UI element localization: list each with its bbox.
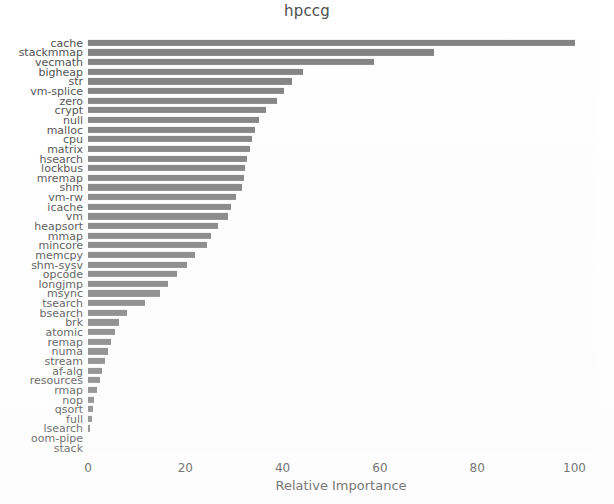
bar-row: stackmmap [88, 48, 594, 58]
bar-row: mincore [88, 240, 594, 250]
bar [88, 184, 242, 190]
bar-row: bsearch [88, 308, 594, 318]
x-axis-tick-label: 0 [84, 461, 92, 475]
bar-row: stream [88, 356, 594, 366]
x-axis-tick-label: 40 [275, 461, 290, 475]
x-axis-tick-label: 80 [470, 461, 485, 475]
bar [88, 233, 211, 239]
bar [88, 88, 284, 94]
bar-row: vm-rw [88, 192, 594, 202]
bar [88, 242, 207, 248]
x-axis-tick-label: 60 [372, 461, 387, 475]
bar-row: bigheap [88, 67, 594, 77]
bar-row: qsort [88, 404, 594, 414]
bar [88, 194, 236, 200]
bar-row: crypt [88, 105, 594, 115]
bar-row: matrix [88, 144, 594, 154]
bar-row: full [88, 414, 594, 424]
bar-row: mremap [88, 173, 594, 183]
bar-row: hsearch [88, 154, 594, 164]
bar-row: lockbus [88, 163, 594, 173]
bar-row: icache [88, 202, 594, 212]
bar-chart-figure: hpccg cachestackmmapvecmathbigheapstrvm-… [0, 0, 614, 504]
bar [88, 319, 119, 325]
bar [88, 310, 127, 316]
bar [88, 136, 252, 142]
bar [88, 290, 160, 296]
bar-rows: cachestackmmapvecmathbigheapstrvm-splice… [88, 38, 594, 453]
bar [88, 40, 575, 46]
bar-row: memcpy [88, 250, 594, 260]
bar [88, 165, 245, 171]
bar-row: zero [88, 96, 594, 106]
chart-title: hpccg [0, 2, 614, 20]
x-axis-tick-label: 20 [178, 461, 193, 475]
bar-row: cpu [88, 134, 594, 144]
bar-row: vm [88, 212, 594, 222]
bar [88, 300, 145, 306]
bar [88, 425, 90, 431]
bar [88, 261, 187, 267]
bar-row: longjmp [88, 279, 594, 289]
x-axis-tick-label: 100 [563, 461, 586, 475]
bar [88, 368, 102, 374]
bar-row: heapsort [88, 221, 594, 231]
bar-row: nop [88, 395, 594, 405]
bar-row: stack [88, 443, 594, 453]
bar [88, 339, 111, 345]
bar [88, 213, 228, 219]
bar [88, 49, 434, 55]
bar [88, 252, 195, 258]
bar [88, 204, 231, 210]
bar-row: null [88, 115, 594, 125]
bar-row: mmap [88, 231, 594, 241]
bar-row: remap [88, 337, 594, 347]
bar [88, 146, 250, 152]
bar-row: rmap [88, 385, 594, 395]
bar [88, 348, 108, 354]
bar [88, 117, 259, 123]
bar [88, 126, 255, 132]
bar-row: msync [88, 289, 594, 299]
bar-row: vm-splice [88, 86, 594, 96]
bar-row: lsearch [88, 424, 594, 434]
bar-row: cache [88, 38, 594, 48]
bar [88, 59, 374, 65]
bar [88, 281, 168, 287]
bar [88, 329, 115, 335]
plot-area: cachestackmmapvecmathbigheapstrvm-splice… [88, 38, 594, 453]
bar [88, 358, 105, 364]
bar-row: opcode [88, 269, 594, 279]
bar-row: oom-pipe [88, 433, 594, 443]
bar [88, 223, 218, 229]
bar [88, 107, 266, 113]
bar [88, 175, 244, 181]
x-axis-label: Relative Importance [88, 478, 594, 493]
bar [88, 377, 100, 383]
bar [88, 78, 292, 84]
bar [88, 406, 93, 412]
bar-row: shm [88, 183, 594, 193]
bar-row: af-alg [88, 366, 594, 376]
bar [88, 69, 303, 75]
bar [88, 271, 177, 277]
bar-row: str [88, 77, 594, 87]
bar [88, 387, 97, 393]
bar [88, 155, 247, 161]
bar [88, 98, 277, 104]
bar [88, 396, 94, 402]
bar-row: vecmath [88, 57, 594, 67]
bar-row: tsearch [88, 298, 594, 308]
bar-row: atomic [88, 327, 594, 337]
bar-row: resources [88, 375, 594, 385]
bar-row: brk [88, 318, 594, 328]
bar-row: malloc [88, 125, 594, 135]
bar [88, 416, 92, 422]
y-axis-tick-label: stack [54, 442, 83, 453]
bar-row: shm-sysv [88, 260, 594, 270]
bar-row: numa [88, 347, 594, 357]
